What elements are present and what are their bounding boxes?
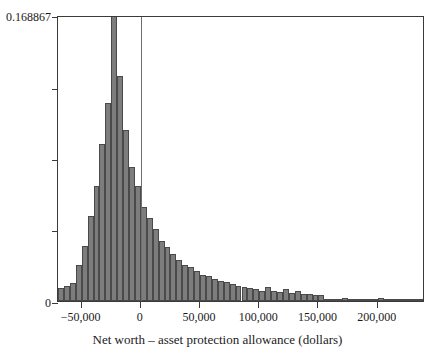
histogram-figure: 00.168867 −50,000050,000100,000150,00020…	[0, 0, 435, 358]
x-axis-tick-label: 100,000	[239, 311, 278, 323]
x-axis-tick-label: 150,000	[298, 311, 337, 323]
y-axis-tick	[52, 17, 58, 18]
histogram-bar	[419, 299, 423, 301]
x-axis-tick	[199, 302, 200, 308]
zero-reference-line	[141, 17, 142, 301]
x-axis-tick-label: 200,000	[357, 311, 396, 323]
x-axis-tick-label: 50,000	[183, 311, 216, 323]
y-axis-tick	[52, 231, 58, 232]
x-axis-title: Net worth – asset protection allowance (…	[0, 333, 435, 346]
x-axis-tick	[377, 302, 378, 308]
y-axis-tick	[52, 89, 58, 90]
x-axis: −50,000050,000100,000150,000200,000	[57, 302, 424, 316]
x-axis-tick	[258, 302, 259, 308]
plot-area: 00.168867	[57, 16, 424, 302]
x-axis-tick-label: −50,000	[61, 311, 101, 323]
y-axis-tick-label: 0	[45, 297, 51, 309]
y-axis-tick-label: 0.168867	[6, 11, 51, 23]
x-axis-tick	[81, 302, 82, 308]
x-axis-tick	[140, 302, 141, 308]
y-axis-tick	[52, 160, 58, 161]
x-axis-tick	[317, 302, 318, 308]
x-axis-tick-label: 0	[137, 311, 143, 323]
histogram-bars	[58, 17, 423, 301]
